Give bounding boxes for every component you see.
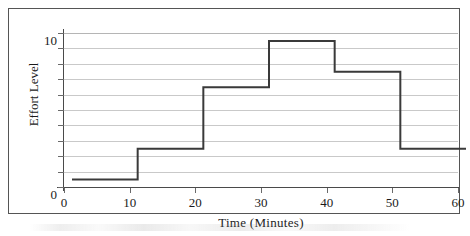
y-tick-6 [58, 95, 64, 96]
x-tick-0 [64, 188, 65, 193]
x-tick-40 [327, 188, 328, 193]
gridline-y-2 [64, 156, 458, 157]
chart-frame: 100 0102030405060 Time (Minutes) Effort … [8, 8, 460, 214]
y-tick-3 [58, 141, 64, 142]
y-tick-5 [58, 110, 64, 111]
y-tick-7 [58, 79, 64, 80]
gridline-y-10 [64, 33, 458, 34]
y-tick-2 [58, 156, 64, 157]
figure-container: 100 0102030405060 Time (Minutes) Effort … [0, 0, 470, 236]
y-tick-1 [58, 172, 64, 173]
y-tick-10 [58, 33, 64, 34]
x-tick-label-60: 60 [438, 196, 470, 210]
x-tick-label-20: 20 [175, 196, 215, 210]
x-tick-30 [261, 188, 262, 193]
x-tick-60 [458, 188, 459, 193]
y-tick-4 [58, 125, 64, 126]
x-tick-label-30: 30 [241, 196, 281, 210]
y-tick-label-10: 10 [27, 34, 57, 47]
y-tick-9 [58, 48, 64, 49]
x-axis-line [57, 187, 459, 188]
gridline-y-5 [64, 110, 458, 111]
gridline-y-8 [64, 64, 458, 65]
gridline-y-1 [64, 172, 458, 173]
x-tick-50 [392, 188, 393, 193]
scan-artifact [30, 224, 410, 231]
x-tick-label-50: 50 [372, 196, 412, 210]
gridline-y-6 [64, 95, 458, 96]
x-tick-label-0: 0 [44, 196, 84, 210]
plot-area [64, 33, 458, 187]
y-tick-8 [58, 64, 64, 65]
y-axis-title: Effort Level [26, 47, 41, 143]
x-tick-label-10: 10 [110, 196, 150, 210]
gridline-y-9 [64, 48, 458, 49]
x-tick-10 [130, 188, 131, 193]
gridline-y-3 [64, 141, 458, 142]
x-tick-20 [195, 188, 196, 193]
gridlines-group [64, 33, 458, 187]
x-tick-label-40: 40 [307, 196, 347, 210]
gridline-y-7 [64, 79, 458, 80]
gridline-y-4 [64, 125, 458, 126]
